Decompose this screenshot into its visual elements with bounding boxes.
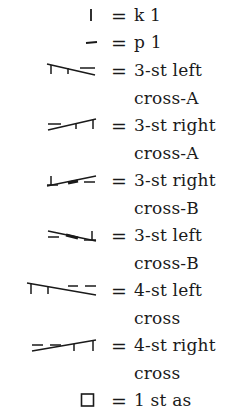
legend-row-4st-right-cross: = 4-st right xyxy=(0,332,248,359)
legend-row-3st-left-cross-a: = 3-st left xyxy=(0,57,248,84)
legend-label: 3-st right xyxy=(134,167,216,194)
purl-stitch-icon xyxy=(84,29,98,56)
equals-sign: = xyxy=(110,113,128,139)
legend-row-4st-left-cross-cont: cross xyxy=(0,305,248,332)
legend-label-continued: cross-A xyxy=(134,140,199,167)
legend-row-3st-right-cross-a: = 3-st right xyxy=(0,112,248,139)
legend-row-3st-right-cross-a-cont: cross-A xyxy=(0,140,248,167)
knit-stitch-icon xyxy=(86,2,96,29)
empty-square-icon xyxy=(80,387,96,414)
equals-sign: = xyxy=(110,278,128,304)
legend-label-continued: cross xyxy=(134,360,180,387)
legend-row-4st-left-cross: = 4-st left xyxy=(0,277,248,304)
legend-label: 4-st left xyxy=(134,277,202,304)
legend-label: 4-st right xyxy=(134,332,216,359)
legend-row-3st-left-cross-b-cont: cross-B xyxy=(0,250,248,277)
stitch-legend: = k 1 = p 1 = 3-st left cross-A xyxy=(0,0,248,414)
legend-row-3st-left-cross-a-cont: cross-A xyxy=(0,85,248,112)
equals-sign: = xyxy=(110,3,128,29)
equals-sign: = xyxy=(110,223,128,249)
3-st-right-cross-a-icon xyxy=(46,112,98,139)
3-st-left-cross-b-icon xyxy=(46,222,98,249)
4-st-left-cross-icon xyxy=(26,277,98,304)
legend-label: k 1 xyxy=(134,2,161,29)
legend-row-k1: = k 1 xyxy=(0,2,248,29)
equals-sign: = xyxy=(110,333,128,359)
legend-row-3st-right-cross-b: = 3-st right xyxy=(0,167,248,194)
3-st-right-cross-b-icon xyxy=(46,167,98,194)
equals-sign: = xyxy=(110,388,128,414)
legend-label-continued: cross xyxy=(134,305,180,332)
equals-sign: = xyxy=(110,168,128,194)
legend-row-4st-right-cross-cont: cross xyxy=(0,360,248,387)
legend-label: p 1 xyxy=(134,29,162,56)
legend-row-p1: = p 1 xyxy=(0,29,248,56)
equals-sign: = xyxy=(110,30,128,56)
3-st-left-cross-a-icon xyxy=(46,57,98,84)
legend-label-continued: cross-B xyxy=(134,250,199,277)
legend-label: 3-st left xyxy=(134,222,202,249)
equals-sign: = xyxy=(110,58,128,84)
legend-label: 3-st right xyxy=(134,112,216,139)
legend-label: 3-st left xyxy=(134,57,202,84)
legend-row-3st-right-cross-b-cont: cross-B xyxy=(0,195,248,222)
4-st-right-cross-icon xyxy=(30,332,98,359)
legend-label-continued: cross-B xyxy=(134,195,199,222)
legend-row-empty-square: = 1 st as xyxy=(0,387,248,414)
legend-label: 1 st as xyxy=(134,387,191,414)
legend-label-continued: cross-A xyxy=(134,85,199,112)
legend-row-3st-left-cross-b: = 3-st left xyxy=(0,222,248,249)
